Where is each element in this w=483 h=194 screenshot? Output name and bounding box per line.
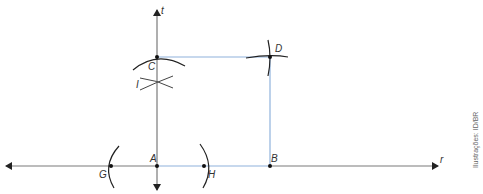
point-H xyxy=(202,164,206,168)
point-B xyxy=(268,164,272,168)
arc-C xyxy=(133,59,185,70)
label-H: H xyxy=(208,169,216,180)
point-A xyxy=(155,164,159,168)
label-D: D xyxy=(275,43,282,54)
label-B: B xyxy=(271,153,278,164)
label-A: A xyxy=(149,153,157,164)
label-r: r xyxy=(440,154,444,165)
point-D xyxy=(268,55,272,59)
image-credit: Ilustrações: ID/BR xyxy=(472,112,480,168)
label-t: t xyxy=(161,5,165,16)
construction-diagram: t r C D I A B G H Ilustrações: ID/BR xyxy=(0,0,483,194)
label-I: I xyxy=(136,79,139,90)
label-C: C xyxy=(148,61,156,72)
point-G xyxy=(109,164,113,168)
point-C xyxy=(155,55,159,59)
label-G: G xyxy=(99,169,107,180)
